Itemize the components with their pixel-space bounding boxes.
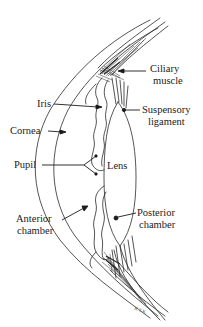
- label-posterior-chamber-line2: chamber: [137, 219, 175, 231]
- label-ciliary-muscle-line2: muscle: [150, 75, 183, 87]
- label-ciliary-muscle: Ciliary muscle: [150, 63, 183, 87]
- lens-outline: [104, 102, 136, 246]
- label-posterior-chamber-line1: Posterior: [137, 207, 175, 219]
- ciliary-muscle-bottom-hatching: [102, 252, 146, 304]
- label-suspensory-ligament-line1: Suspensory: [142, 104, 190, 116]
- label-anterior-chamber: Anterior chamber: [16, 213, 53, 237]
- label-ciliary-muscle-line1: Ciliary: [150, 63, 183, 75]
- label-suspensory-ligament-line2: ligament: [142, 116, 190, 128]
- cornea-outer-edge: [35, 20, 150, 318]
- label-anterior-chamber-line2: chamber: [16, 225, 53, 237]
- iris-lower: [94, 186, 110, 260]
- label-posterior-chamber: Posterior chamber: [137, 207, 175, 231]
- label-iris: Iris: [37, 98, 51, 110]
- label-lens: Lens: [107, 160, 127, 172]
- eye-diagram: Ciliary muscle Iris Suspensory ligament …: [0, 0, 203, 327]
- label-suspensory-ligament: Suspensory ligament: [142, 104, 190, 128]
- label-anterior-chamber-line1: Anterior: [16, 213, 53, 225]
- ciliary-muscle-top-hatching: [96, 38, 146, 82]
- label-cornea: Cornea: [10, 125, 40, 137]
- label-pupil: Pupil: [14, 159, 36, 171]
